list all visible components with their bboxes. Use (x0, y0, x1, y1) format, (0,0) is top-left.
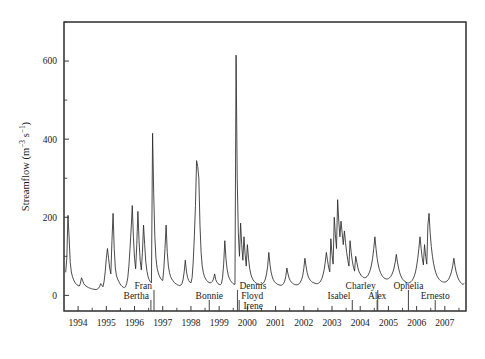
event-label-bonnie: Bonnie (196, 291, 223, 301)
event-label-charley: Charley (346, 281, 376, 291)
event-label-irene: Irene (243, 301, 263, 311)
x-tick-label: 1997 (153, 318, 172, 328)
x-tick-label: 2005 (379, 318, 398, 328)
x-tick-label: 1996 (125, 318, 144, 328)
x-tick-label: 1998 (181, 318, 200, 328)
x-tick-label: 2006 (407, 318, 426, 328)
plot-frame-overlay (64, 22, 466, 311)
streamflow-timeseries-chart: 0200400600Streamflow (m−3 s−1)1994199519… (0, 0, 485, 359)
streamflow-series-line (66, 55, 464, 289)
x-tick-label: 2001 (266, 318, 285, 328)
x-tick-label: 1999 (210, 318, 229, 328)
event-label-fran: Fran (135, 281, 153, 291)
x-tick-label: 2007 (435, 318, 454, 328)
y-tick-label: 400 (43, 135, 58, 145)
y-tick-label: 200 (43, 213, 58, 223)
x-tick-label: 2002 (294, 318, 313, 328)
event-label-ophelia: Ophelia (393, 281, 424, 291)
event-label-bertha: Bertha (124, 291, 150, 301)
event-label-floyd: Floyd (241, 291, 263, 301)
x-tick-label: 1994 (69, 318, 88, 328)
y-axis-title: Streamflow (m−3 s−1) (18, 121, 33, 211)
y-tick-label: 600 (43, 56, 58, 66)
event-label-isabel: Isabel (328, 291, 351, 301)
y-tick-label: 0 (52, 291, 57, 301)
event-label-ernesto: Ernesto (421, 291, 450, 301)
x-tick-label: 2000 (238, 318, 257, 328)
x-tick-label: 2003 (323, 318, 342, 328)
x-tick-label: 2004 (351, 318, 370, 328)
x-tick-label: 1995 (97, 318, 116, 328)
event-label-alex: Alex (368, 291, 387, 301)
plot-frame (64, 22, 466, 311)
event-label-dennis: Dennis (239, 281, 266, 291)
